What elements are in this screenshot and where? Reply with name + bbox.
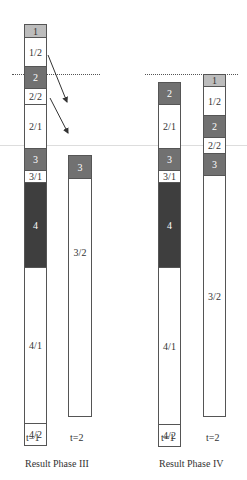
segment-2-2: 2/2 [203,137,226,154]
arrow-icon [48,55,67,102]
segment-label: 4 [167,220,172,231]
segment-4-1: 4/1 [158,267,181,425]
segment-3-2: 3/2 [203,175,226,417]
phase-iv-t2-label: t=2 [206,432,219,443]
segment-1-2: 1/2 [203,86,226,116]
segment-label: 2/2 [208,140,221,151]
segment-label: 2 [212,121,217,132]
phase-iv-t1-label: t=1 [161,432,174,443]
phase-iii-t2-label: t=2 [70,432,83,443]
segment-3: 3 [158,148,181,171]
segment-label: 3/2 [208,291,221,302]
segment-2-1: 2/1 [158,104,181,149]
segment-2: 2 [203,115,226,138]
segment-label: 3 [212,159,217,170]
segment-label: 3 [167,154,172,165]
segment-label: 3/1 [163,171,176,182]
segment-label: 2 [167,88,172,99]
segment-3: 3 [203,153,226,176]
segment-4: 4 [158,182,181,268]
phase-iii-t1-label: t=1 [26,432,39,443]
segment-label: 1/2 [208,96,221,107]
segment-label: 1 [212,75,217,86]
segment-label: 4/1 [163,341,176,352]
phase-iii-caption: Result Phase III [25,458,89,469]
segment-2: 2 [158,82,181,105]
segment-label: 2/1 [163,121,176,132]
arrow-icon [50,98,68,133]
phase-iv-caption: Result Phase IV [159,458,223,469]
